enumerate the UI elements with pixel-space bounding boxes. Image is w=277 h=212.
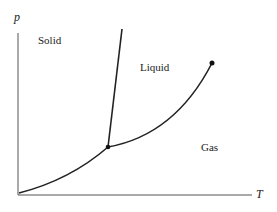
x-axis-label: T [256, 187, 263, 202]
triple-point [106, 145, 111, 150]
phase-diagram [0, 0, 277, 212]
region-solid: Solid [38, 34, 61, 46]
region-liquid: Liquid [140, 61, 169, 73]
sublimation-curve [19, 147, 108, 193]
region-gas: Gas [201, 141, 218, 153]
fusion-line [108, 29, 122, 147]
critical-point [210, 61, 215, 66]
y-axis-label: p [14, 10, 20, 25]
vaporization-curve [108, 63, 212, 147]
